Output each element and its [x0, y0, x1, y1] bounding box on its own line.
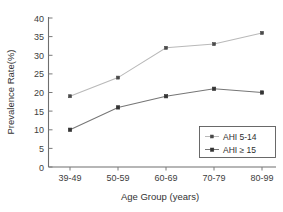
x-tick-label: 39-49: [58, 173, 81, 183]
chart-canvas: 40 35 30 25 20 15 10 5 0 39-49 50-59 60-…: [0, 0, 283, 212]
data-point: [213, 43, 216, 46]
legend: AHI 5-14 AHI ≥ 15: [200, 127, 276, 158]
legend-label-ahi-5-14: AHI 5-14: [223, 132, 257, 142]
legend-swatch-marker-ahi-ge-15: [210, 148, 213, 151]
data-point: [68, 128, 71, 131]
y-tick-label: 15: [34, 107, 44, 117]
y-tick-label: 0: [39, 163, 44, 173]
y-axis-ticks: [49, 18, 53, 167]
y-tick-label: 5: [39, 144, 44, 154]
prevalence-rate-line-chart: 40 35 30 25 20 15 10 5 0 39-49 50-59 60-…: [0, 0, 283, 212]
y-tick-label: 40: [34, 14, 44, 24]
data-point: [165, 46, 168, 49]
data-point: [212, 87, 215, 90]
y-tick-label: 20: [34, 88, 44, 98]
data-point: [164, 95, 167, 98]
x-tick-label: 50-59: [106, 173, 129, 183]
x-tick-label: 60-69: [154, 173, 177, 183]
y-tick-label: 25: [34, 69, 44, 79]
series-ahi-5-14: [69, 31, 264, 97]
x-tick-label: 80-99: [250, 173, 273, 183]
y-axis-title: Prevalence Rate(%): [5, 49, 16, 134]
y-tick-label: 10: [34, 125, 44, 135]
data-point: [260, 91, 263, 94]
x-axis-tick-labels: 39-49 50-59 60-69 70-79 80-99: [58, 173, 273, 183]
legend-swatch-marker-ahi-5-14: [210, 135, 213, 138]
series-ahi-ge-15: [68, 87, 263, 131]
y-axis-tick-labels: 40 35 30 25 20 15 10 5 0: [34, 14, 44, 173]
data-point: [117, 76, 120, 79]
y-tick-label: 30: [34, 51, 44, 61]
data-point: [261, 31, 264, 34]
data-point: [69, 95, 72, 98]
y-tick-label: 35: [34, 32, 44, 42]
data-point: [116, 106, 119, 109]
x-tick-label: 70-79: [202, 173, 225, 183]
legend-label-ahi-ge-15: AHI ≥ 15: [223, 145, 256, 155]
x-axis-title: Age Group (years): [121, 191, 199, 202]
